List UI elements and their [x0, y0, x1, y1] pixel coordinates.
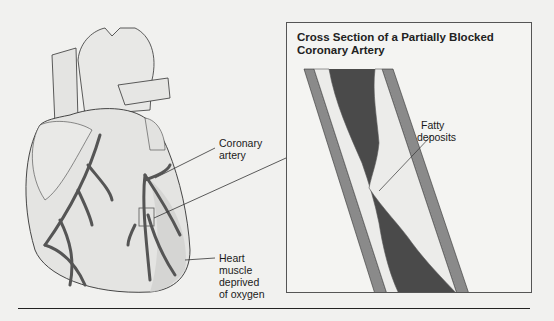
cross-section-inset: Cross Section of a Partially Blocked Cor…	[286, 22, 532, 293]
heart-muscle-label: Heart muscle deprived of oxygen	[219, 252, 265, 300]
bottom-rule	[18, 308, 530, 309]
artery-cross-section	[287, 23, 532, 293]
coronary-artery-label: Coronary artery	[219, 137, 262, 161]
fatty-deposits-label: Fatty deposits	[417, 119, 456, 143]
inset-title: Cross Section of a Partially Blocked Cor…	[297, 31, 494, 57]
